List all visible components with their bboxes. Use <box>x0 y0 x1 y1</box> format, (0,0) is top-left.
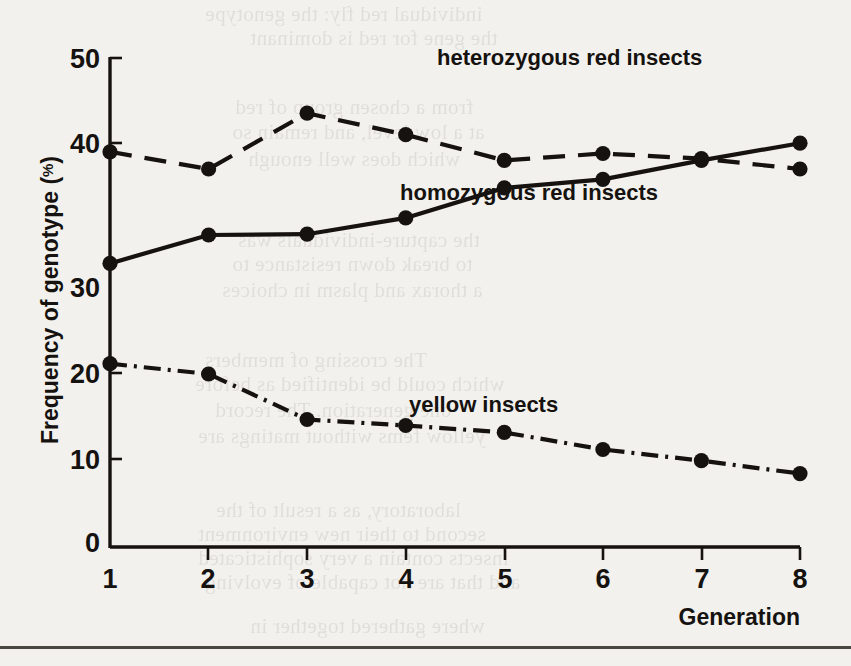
chart-figure: 50 40 30 20 10 0 Frequency of genotype (… <box>0 0 851 666</box>
y-axis-title-text: Frequency of genotype (%) <box>37 156 63 444</box>
y-axis-title: Frequency of genotype (%) <box>37 156 63 444</box>
data-point <box>497 425 512 440</box>
y-tick-label-10: 10 <box>70 445 100 475</box>
x-axis: 1 2 3 4 5 6 7 8 <box>102 547 807 594</box>
bottom-rule <box>0 646 851 649</box>
series-yellow <box>102 356 807 481</box>
data-point <box>497 153 512 168</box>
data-point <box>201 161 216 176</box>
x-tick-label-1: 1 <box>102 564 117 594</box>
x-tick-label-3: 3 <box>299 564 314 594</box>
x-tick-label-2: 2 <box>200 564 215 594</box>
y-tick-label-50: 50 <box>70 44 100 74</box>
data-point <box>595 442 610 457</box>
y-axis: 50 40 30 20 10 0 <box>70 44 122 558</box>
data-point <box>694 153 709 168</box>
data-point <box>792 466 807 481</box>
series-label-yellow: yellow insects <box>409 392 558 417</box>
y-axis-title-percent: % <box>39 164 56 177</box>
x-tick-label-8: 8 <box>792 564 807 594</box>
data-point <box>300 227 315 242</box>
series-layer <box>102 106 807 482</box>
data-point <box>201 227 216 242</box>
data-point <box>398 418 413 433</box>
data-point <box>595 146 610 161</box>
y-tick-label-40: 40 <box>70 129 100 159</box>
y-tick-label-0: 0 <box>85 528 100 558</box>
data-point <box>398 127 413 142</box>
data-point <box>102 256 117 271</box>
x-tick-label-4: 4 <box>398 564 413 594</box>
data-point <box>201 366 216 381</box>
x-tick-label-7: 7 <box>694 564 709 594</box>
line-chart: 50 40 30 20 10 0 Frequency of genotype (… <box>0 0 851 666</box>
y-axis-title-main: Frequency of genotype ( <box>37 177 63 444</box>
data-point <box>792 136 807 151</box>
data-point <box>398 210 413 225</box>
x-tick-label-5: 5 <box>497 564 512 594</box>
y-tick-label-30: 30 <box>70 273 100 303</box>
y-axis-title-close: ) <box>37 156 63 164</box>
data-point <box>102 144 117 159</box>
data-point <box>300 106 315 121</box>
x-axis-title: Generation <box>679 604 800 630</box>
x-tick-label-6: 6 <box>595 564 610 594</box>
data-point <box>102 356 117 371</box>
series-label-heterozygous: heterozygous red insects <box>437 45 702 70</box>
series-label-homozygous: homozygous red insects <box>400 180 658 205</box>
data-point <box>694 453 709 468</box>
y-tick-label-20: 20 <box>70 359 100 389</box>
data-point <box>792 161 807 176</box>
data-point <box>300 412 315 427</box>
